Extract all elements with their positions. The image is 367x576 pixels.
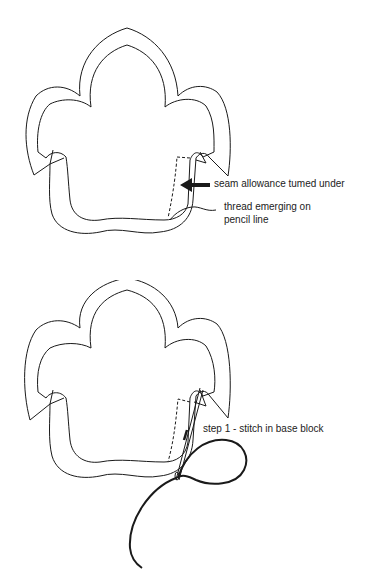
label-pencil-line: pencil line [224,214,268,226]
label-thread-emerging: thread emerging on [224,201,311,213]
figure-step-1: step 1 - stitch in base block [0,280,367,576]
arrow-icon [180,178,210,192]
outer-outline [26,28,230,233]
appliqué-shape-diagram-top [0,0,367,280]
figure-seam-allowance: seam allowance tumed under thread emergi… [0,0,367,280]
thread-line [170,207,216,220]
label-step-1: step 1 - stitch in base block [203,423,324,435]
notch-left [50,390,64,404]
inner-pencil-line [38,45,215,220]
inner-pencil-line [38,290,215,462]
thread-loop [130,440,246,568]
label-seam-allowance: seam allowance tumed under [214,178,345,190]
